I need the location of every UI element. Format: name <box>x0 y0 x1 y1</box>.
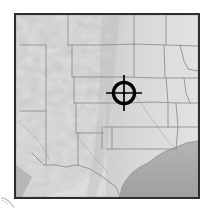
corner-swoosh-mark <box>1 197 15 208</box>
target-reticle[interactable] <box>106 75 142 111</box>
reticle-center-dot <box>123 92 126 95</box>
map-frame[interactable] <box>14 13 200 199</box>
map-figure <box>0 0 208 210</box>
